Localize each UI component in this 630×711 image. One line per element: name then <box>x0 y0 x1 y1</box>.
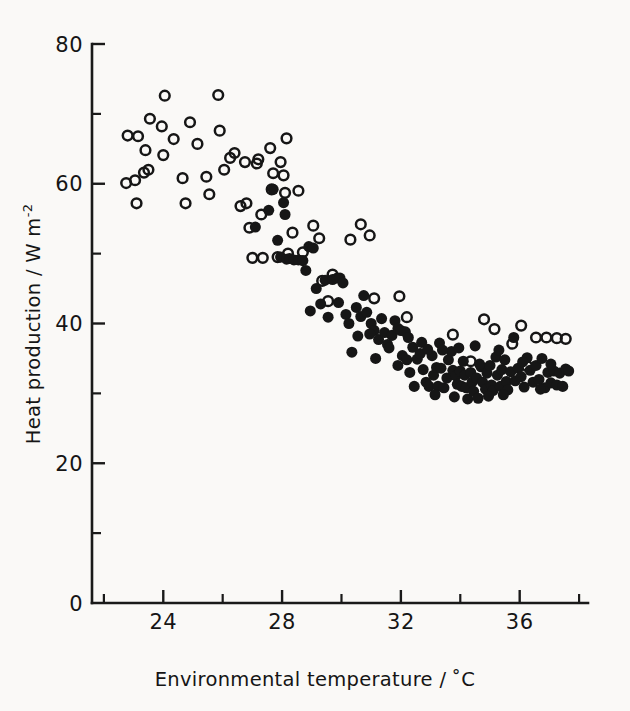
data-point-filled <box>458 356 469 367</box>
data-point-open <box>178 173 188 183</box>
data-point-filled <box>346 347 357 358</box>
data-point-open <box>308 221 318 231</box>
data-point-filled <box>418 364 429 375</box>
data-point-open <box>130 175 140 185</box>
data-point-filled <box>250 222 261 233</box>
data-point-open <box>219 165 229 175</box>
data-point-filled <box>422 344 433 355</box>
data-point-filled <box>449 391 460 402</box>
data-point-open <box>314 233 324 243</box>
data-point-filled <box>263 205 274 216</box>
data-point-filled <box>361 307 372 318</box>
data-point-open <box>169 134 179 144</box>
data-point-open <box>346 235 356 245</box>
data-point-open <box>395 291 405 301</box>
data-point-filled <box>323 312 334 323</box>
data-point-open <box>158 150 168 160</box>
data-point-filled <box>493 345 504 356</box>
x-axis-title-unit: ˚C <box>451 668 475 691</box>
open-circle-series <box>121 90 570 371</box>
data-point-open <box>490 324 500 334</box>
filled-circle-series <box>250 184 574 405</box>
svg-text:Heat production / W m-2: Heat production / W m-2 <box>20 204 45 444</box>
data-point-open <box>369 293 379 303</box>
x-tick-label: 24 <box>149 610 177 634</box>
data-point-open <box>185 117 195 127</box>
data-point-filled <box>516 371 527 382</box>
data-point-filled <box>315 298 326 309</box>
svg-text:Environmental temperature /˚C: Environmental temperature /˚C <box>155 668 476 691</box>
data-point-filled <box>453 342 464 353</box>
data-point-filled <box>305 305 316 316</box>
data-point-open <box>276 157 286 167</box>
data-point-open <box>160 91 170 101</box>
x-axis-title: Environmental temperature /˚C <box>155 668 476 691</box>
data-point-open <box>531 333 541 343</box>
data-point-open <box>240 157 250 167</box>
data-point-open <box>204 189 214 199</box>
data-point-filled <box>517 356 528 367</box>
data-point-open <box>215 126 225 136</box>
x-tick-label: 32 <box>387 610 415 634</box>
data-point-open <box>356 219 366 229</box>
data-point-open <box>479 314 489 324</box>
data-point-open <box>294 186 304 196</box>
y-axis-ticks <box>92 44 105 533</box>
data-point-filled <box>470 340 481 351</box>
data-point-filled <box>557 381 568 392</box>
data-point-open <box>268 168 278 178</box>
data-point-open <box>279 171 289 181</box>
data-point-filled <box>311 283 322 294</box>
data-point-filled <box>535 384 546 395</box>
data-point-filled <box>333 297 344 308</box>
data-point-open <box>542 333 552 343</box>
data-point-open <box>213 90 223 100</box>
x-tick-label: 28 <box>268 610 296 634</box>
x-axis-tick-labels: 24283236 <box>149 610 533 634</box>
data-point-open <box>133 131 143 141</box>
data-point-filled <box>392 360 403 371</box>
data-point-open <box>123 131 133 141</box>
x-tick-label: 36 <box>506 610 534 634</box>
y-tick-label: 20 <box>55 452 83 476</box>
x-axis-ticks <box>104 590 579 603</box>
data-point-filled <box>337 277 348 288</box>
y-tick-label: 0 <box>69 592 83 616</box>
data-point-filled <box>272 235 283 246</box>
data-point-open <box>202 172 212 182</box>
data-point-filled <box>403 332 414 343</box>
data-point-open <box>280 188 290 198</box>
scatter-plot-figure: 020406080 24283236 Environmental tempera… <box>0 0 630 711</box>
data-point-filled <box>438 382 449 393</box>
data-point-filled <box>435 363 446 374</box>
data-point-filled <box>352 331 363 342</box>
data-point-open <box>448 330 458 340</box>
data-point-filled <box>498 389 509 400</box>
data-point-filled <box>563 365 574 376</box>
plot-canvas: 020406080 24283236 Environmental tempera… <box>0 0 630 711</box>
data-point-open <box>132 198 142 208</box>
data-point-filled <box>483 391 494 402</box>
data-point-filled <box>308 243 319 254</box>
data-point-filled <box>358 290 369 301</box>
data-point-filled <box>474 359 485 370</box>
x-axis-title-main: Environmental temperature / <box>155 668 447 691</box>
data-point-filled <box>404 367 415 378</box>
data-point-filled <box>268 184 279 195</box>
data-point-open <box>265 143 275 153</box>
y-axis-tick-labels: 020406080 <box>55 33 83 616</box>
data-point-filled <box>343 318 354 329</box>
data-point-open <box>402 312 412 322</box>
data-point-filled <box>370 353 381 364</box>
y-tick-label: 40 <box>55 312 83 336</box>
data-point-open <box>181 198 191 208</box>
data-point-open <box>145 114 155 124</box>
data-point-filled <box>278 197 289 208</box>
data-point-filled <box>473 393 484 404</box>
data-point-filled <box>430 389 441 400</box>
data-point-filled <box>499 354 510 365</box>
data-point-filled <box>545 359 556 370</box>
data-point-filled <box>297 255 308 266</box>
y-tick-label: 80 <box>55 33 83 57</box>
data-point-open <box>516 321 526 331</box>
